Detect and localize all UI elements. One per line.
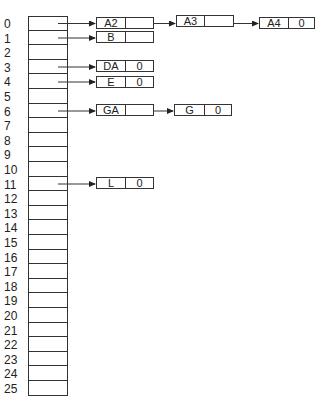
list-node: A4 0 xyxy=(259,17,315,29)
node-next: 0 xyxy=(289,18,314,28)
node-next: 0 xyxy=(205,105,231,115)
list-node: L 0 xyxy=(96,177,154,189)
list-node: A3 xyxy=(176,15,234,27)
node-key: E xyxy=(97,77,126,87)
node-key: A2 xyxy=(97,18,126,28)
node-next xyxy=(126,32,153,42)
node-key: GA xyxy=(97,105,126,115)
list-node: E 0 xyxy=(96,76,154,88)
node-next: 0 xyxy=(126,61,153,71)
node-key: DA xyxy=(97,61,126,71)
node-key: L xyxy=(97,178,126,188)
node-key: A3 xyxy=(177,16,205,26)
node-next xyxy=(126,18,153,28)
node-next: 0 xyxy=(126,178,153,188)
list-node: B xyxy=(96,31,154,43)
pointer-arrows xyxy=(0,0,327,402)
list-node: GA xyxy=(96,104,154,116)
node-next xyxy=(205,16,233,26)
node-key: A4 xyxy=(260,18,289,28)
node-next: 0 xyxy=(126,77,153,87)
node-key: G xyxy=(175,105,205,115)
list-node: G 0 xyxy=(174,104,232,116)
list-node: A2 xyxy=(96,17,154,29)
node-key: B xyxy=(97,32,126,42)
list-node: DA 0 xyxy=(96,60,154,72)
node-next xyxy=(126,105,153,115)
